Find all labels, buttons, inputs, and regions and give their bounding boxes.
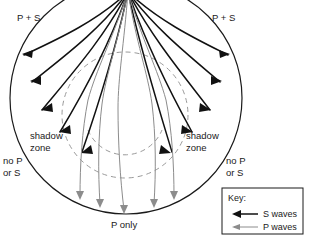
label-shadow-zone-right-line1: shadow: [186, 130, 219, 141]
label-shadow-zone-left-line2: zone: [30, 142, 51, 153]
label-shadow-zone-left-line1: shadow: [30, 130, 63, 141]
p-wave-arrowhead: [170, 191, 178, 200]
s-wave-arrowhead: [211, 76, 222, 85]
p-wave-arrowhead: [150, 199, 158, 208]
s-wave-arrowhead: [219, 50, 230, 58]
label-no-p-or-s-right-line1: no P: [226, 155, 246, 166]
p-wave-ray-group: [80, 0, 174, 210]
p-wave-arrowhead: [120, 205, 128, 214]
p-wave-arrowhead: [76, 191, 84, 200]
s-wave-ray: [42, 0, 128, 110]
key-title: Key:: [228, 193, 246, 203]
s-wave-ray: [32, 0, 128, 82]
label-p-only: P only: [111, 219, 137, 230]
seismic-shadow-zone-figure: P + S P + S shadow zone shadow zone no P…: [0, 0, 310, 242]
label-no-p-or-s-right-line2: or S: [226, 167, 243, 178]
s-wave-arrowhead: [22, 50, 33, 58]
label-shadow-zone-right-line2: zone: [186, 142, 207, 153]
key-s-wave-label: S waves: [263, 209, 298, 219]
key-p-wave-label: P waves: [263, 222, 297, 232]
s-wave-ray: [128, 0, 210, 110]
diagram-canvas: P + S P + S shadow zone shadow zone no P…: [0, 0, 310, 242]
label-ps-right: P + S: [212, 12, 235, 23]
s-wave-ray: [128, 0, 220, 82]
key-legend: Key: S waves P waves: [222, 188, 303, 234]
s-wave-ray: [128, 0, 172, 152]
p-wave-arrowhead-group: [76, 191, 178, 214]
s-wave-arrowhead: [159, 145, 171, 154]
label-no-p-or-s-left-line1: no P: [3, 155, 23, 166]
p-wave-ray: [80, 0, 128, 196]
s-wave-arrowhead: [30, 76, 41, 85]
label-no-p-or-s-left-line2: or S: [3, 167, 20, 178]
p-wave-ray: [118, 0, 128, 210]
label-ps-left: P + S: [17, 12, 40, 23]
p-wave-arrowhead: [96, 199, 104, 208]
